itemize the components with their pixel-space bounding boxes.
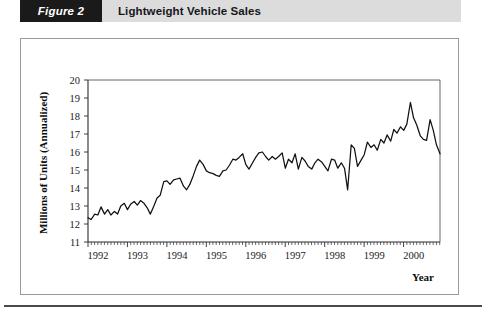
bottom-divider: [4, 305, 482, 307]
figure-number-tag: Figure 2: [20, 0, 102, 22]
figure-header: Figure 2 Lightweight Vehicle Sales: [20, 0, 461, 22]
figure-title: Lightweight Vehicle Sales: [102, 0, 461, 22]
figure-frame: [20, 38, 459, 295]
